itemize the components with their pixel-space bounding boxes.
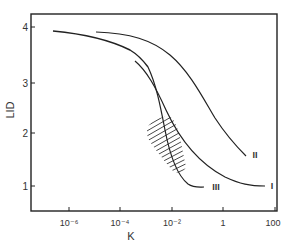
lid-vs-k-chart: 4 3 2 1 10⁻⁶ 10⁻⁴ 10⁻² 1 100 K LID — [0, 0, 298, 244]
x-axis-tick-labels: 10⁻⁶ 10⁻⁴ 10⁻² 1 100 — [60, 218, 281, 228]
y-axis-tick-labels: 4 3 2 1 — [22, 22, 28, 192]
y-tick-1: 1 — [22, 181, 28, 192]
x-tick-1e-2: 10⁻² — [163, 218, 181, 228]
curve-label-II: II — [252, 150, 257, 160]
curve-label-III: III — [212, 182, 220, 192]
x-tick-100: 100 — [265, 218, 280, 228]
y-tick-4: 4 — [22, 22, 28, 33]
curve-I — [135, 61, 265, 186]
x-tick-1e-4: 10⁻⁴ — [111, 218, 130, 228]
x-tick-1e-6: 10⁻⁶ — [60, 218, 79, 228]
y-axis-title: LID — [4, 101, 16, 118]
x-axis-title: K — [127, 230, 135, 242]
y-tick-2: 2 — [22, 128, 28, 139]
x-tick-1: 1 — [220, 218, 225, 228]
y-tick-3: 3 — [22, 78, 28, 89]
curve-label-I: I — [271, 181, 274, 191]
plot-frame — [31, 14, 277, 211]
